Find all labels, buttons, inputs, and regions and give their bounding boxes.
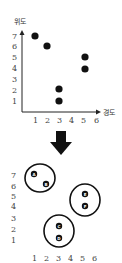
y-tick: 4: [12, 64, 17, 73]
cluster-ef: E F: [70, 184, 100, 216]
y-tick: 5: [11, 192, 16, 201]
x-tick: 4: [69, 116, 74, 125]
y-tick: 2: [11, 225, 16, 234]
cluster-ring: [70, 184, 100, 216]
y-tick: 5: [12, 53, 17, 62]
data-point: [55, 85, 62, 92]
point-label: B: [44, 182, 47, 187]
data-point: [81, 65, 88, 72]
y-tick: 7: [11, 171, 16, 180]
cluster-ring: [25, 164, 55, 192]
data-point: [81, 53, 88, 60]
x-axis-arrow-icon: [96, 110, 101, 115]
scatter-plot-clustered: 7 6 5 4 3 2 1 1 2 3 4 5 6 A B E F: [11, 164, 100, 263]
point-label: E: [84, 192, 87, 197]
x-axis-label: 경도: [103, 108, 116, 117]
y-tick: 3: [11, 214, 16, 223]
x-tick: 2: [44, 254, 49, 263]
cluster-ab: A B: [25, 164, 55, 192]
y-tick: 3: [12, 75, 17, 84]
x-tick: 5: [81, 116, 86, 125]
x-tick: 2: [45, 116, 50, 125]
data-point: [31, 32, 38, 39]
point-label: F: [84, 204, 87, 209]
y-tick: 1: [11, 236, 16, 245]
y-axis-label: 위도: [14, 18, 27, 26]
x-tick: 3: [56, 254, 61, 263]
x-tick: 4: [68, 254, 73, 263]
x-tick: 5: [80, 254, 85, 263]
x-tick: 6: [94, 116, 99, 125]
scatter-plot-original: 위도 경도 7 6 5 4 3 2 1 1 2 3 4 5 6: [12, 18, 116, 125]
clustering-diagram: 위도 경도 7 6 5 4 3 2 1 1 2 3 4 5 6 7 6 5 4 …: [0, 0, 122, 263]
cluster-cd: C D: [44, 215, 74, 247]
x-tick: 1: [33, 116, 38, 125]
x-tick: 1: [32, 254, 37, 263]
cluster-ring: [44, 215, 74, 247]
y-tick: 6: [11, 182, 16, 191]
y-tick: 1: [12, 97, 17, 106]
y-tick: 6: [12, 42, 17, 51]
data-point: [43, 42, 50, 49]
x-tick: 3: [57, 116, 62, 125]
data-point: [55, 97, 62, 104]
arrow-down-icon: [50, 131, 72, 155]
y-tick: 4: [11, 202, 16, 211]
y-tick: 2: [12, 86, 17, 95]
y-tick: 7: [12, 32, 17, 41]
point-label: C: [58, 224, 61, 229]
y-axis-arrow-icon: [20, 30, 25, 35]
x-tick: 6: [92, 254, 97, 263]
